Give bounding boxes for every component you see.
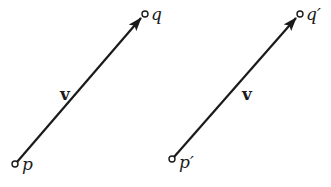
vector-right-label: v xyxy=(241,84,253,104)
point-q-prime-label: q′ xyxy=(306,4,321,24)
vector-left-label: v xyxy=(59,84,71,104)
point-q-prime-marker xyxy=(297,11,303,17)
point-q-marker xyxy=(142,11,148,17)
point-p-prime-marker xyxy=(169,156,175,162)
vector-left-shaft xyxy=(17,18,141,162)
vector-right-shaft xyxy=(174,18,296,157)
vector-right: p′ q′ v xyxy=(169,4,321,172)
point-q-label: q xyxy=(151,4,162,24)
point-p-marker xyxy=(12,161,18,167)
point-p-prime-label: p′ xyxy=(179,152,194,172)
vector-diagram: p q v p′ q′ v xyxy=(0,0,331,187)
point-p-label: p xyxy=(22,154,33,174)
diagram-canvas: p q v p′ q′ v xyxy=(0,0,331,187)
vector-left: p q v xyxy=(12,4,162,174)
